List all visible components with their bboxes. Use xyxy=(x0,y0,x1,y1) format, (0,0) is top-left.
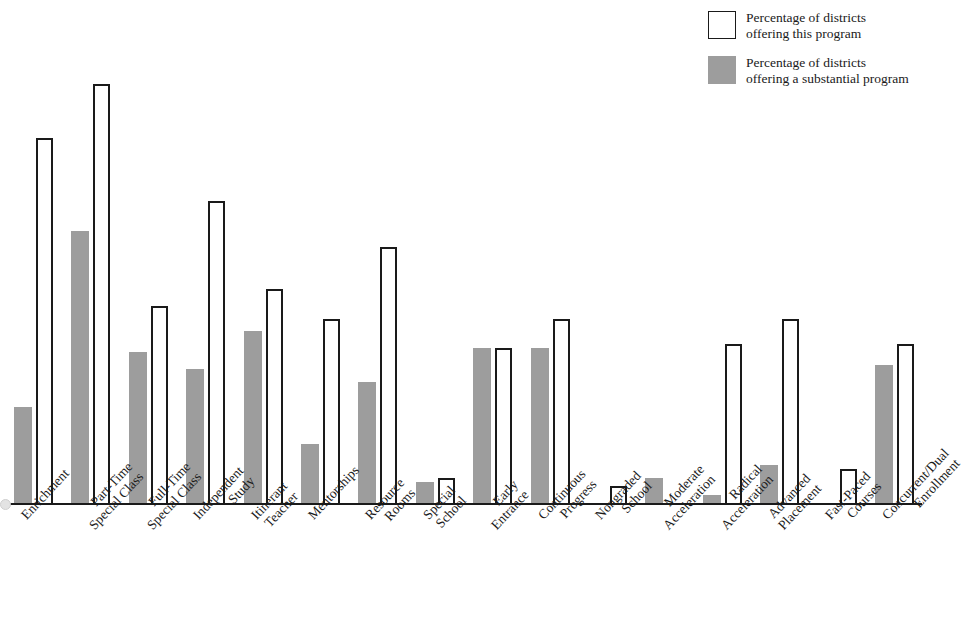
plot-area xyxy=(0,0,925,506)
bar-substantial xyxy=(531,348,549,503)
bar-offering xyxy=(553,319,570,503)
bar-offering xyxy=(36,138,53,503)
bar-substantial xyxy=(71,231,89,503)
bar-substantial xyxy=(301,444,319,503)
bar-offering xyxy=(266,289,283,503)
x-axis-labels: EnrichmentPart-TimeSpecial ClassFull-Tim… xyxy=(0,506,925,637)
bar-substantial xyxy=(473,348,491,503)
bar-offering xyxy=(151,306,168,503)
bar-offering xyxy=(208,201,225,503)
bar-offering xyxy=(380,247,397,503)
bar-substantial xyxy=(358,382,376,504)
bar-offering xyxy=(93,84,110,503)
bar-substantial xyxy=(14,407,32,503)
